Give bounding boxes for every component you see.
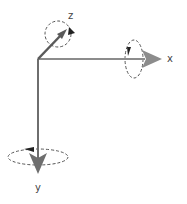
x-axis	[38, 50, 162, 68]
x-axis-label: x	[167, 53, 173, 64]
y-axis	[29, 59, 47, 174]
z-rotation-arrow-icon	[68, 27, 75, 35]
z-axis	[38, 29, 67, 59]
y-axis-label: y	[35, 182, 41, 193]
x-rotation-arrow-icon	[127, 47, 131, 56]
z-axis-label: z	[68, 10, 73, 21]
y-rotation-arrow-icon	[24, 147, 34, 152]
axes-diagram: x y z	[0, 0, 187, 204]
